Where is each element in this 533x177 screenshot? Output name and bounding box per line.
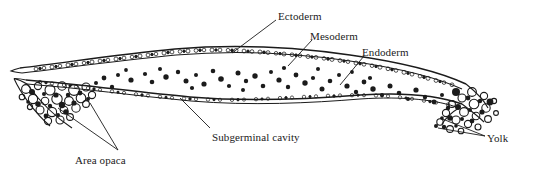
label-subgerminal-cavity: Subgerminal cavity [212, 131, 300, 143]
label-endoderm: Endoderm [362, 46, 409, 58]
blastoderm-section-figure [0, 0, 533, 177]
label-ectoderm: Ectoderm [278, 10, 322, 22]
label-area-opaca: Area opaca [75, 154, 126, 166]
label-yolk: Yolk [487, 132, 508, 144]
label-mesoderm: Mesoderm [310, 30, 358, 42]
